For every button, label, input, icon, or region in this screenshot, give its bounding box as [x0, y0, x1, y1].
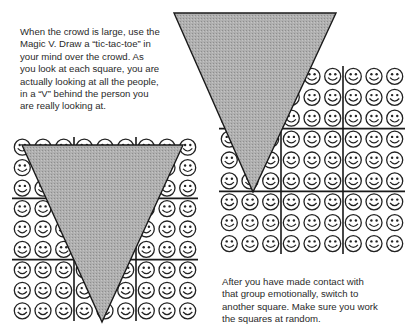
smiley-face-icon — [242, 215, 258, 231]
smiley-face-icon — [325, 68, 341, 84]
smiley-face-icon — [283, 131, 299, 147]
smiley-face-icon — [283, 152, 299, 168]
smiley-face-icon — [14, 180, 30, 196]
smiley-face-icon — [345, 110, 361, 126]
smiley-face-icon — [159, 282, 175, 298]
smiley-face-icon — [14, 241, 30, 257]
smiley-face-icon — [304, 89, 320, 105]
smiley-face-icon — [345, 215, 361, 231]
smiley-face-icon — [138, 262, 154, 278]
smiley-face-icon — [76, 303, 92, 319]
smiley-face-icon — [304, 215, 320, 231]
smiley-face-icon — [304, 173, 320, 189]
smiley-face-icon — [35, 303, 51, 319]
smiley-face-icon — [14, 201, 30, 217]
smiley-face-icon — [180, 160, 196, 176]
smiley-face-icon — [387, 89, 403, 105]
smiley-face-icon — [138, 241, 154, 257]
smiley-face-icon — [56, 303, 72, 319]
smiley-face-icon — [366, 131, 382, 147]
smiley-face-icon — [387, 173, 403, 189]
illustration — [0, 0, 418, 336]
smiley-face-icon — [325, 152, 341, 168]
smiley-face-icon — [325, 173, 341, 189]
smiley-face-icon — [304, 131, 320, 147]
smiley-face-icon — [387, 110, 403, 126]
smiley-face-icon — [138, 303, 154, 319]
smiley-face-icon — [304, 236, 320, 252]
smiley-face-icon — [325, 131, 341, 147]
smiley-face-icon — [366, 68, 382, 84]
smiley-face-icon — [180, 262, 196, 278]
smiley-face-icon — [345, 152, 361, 168]
smiley-face-icon — [159, 241, 175, 257]
smiley-face-icon — [304, 110, 320, 126]
smiley-face-icon — [387, 215, 403, 231]
smiley-face-icon — [138, 282, 154, 298]
smiley-face-icon — [14, 282, 30, 298]
smiley-face-icon — [35, 241, 51, 257]
smiley-face-icon — [387, 152, 403, 168]
smiley-face-icon — [180, 303, 196, 319]
smiley-face-icon — [159, 221, 175, 237]
smiley-face-icon — [221, 194, 237, 210]
smiley-face-icon — [263, 215, 279, 231]
smiley-face-icon — [283, 173, 299, 189]
smiley-face-icon — [242, 236, 258, 252]
smiley-face-icon — [387, 131, 403, 147]
smiley-face-icon — [345, 173, 361, 189]
smiley-face-icon — [14, 221, 30, 237]
smiley-face-icon — [159, 201, 175, 217]
smiley-face-icon — [325, 194, 341, 210]
smiley-face-icon — [159, 262, 175, 278]
smiley-face-icon — [118, 303, 134, 319]
smiley-face-icon — [221, 173, 237, 189]
smiley-face-icon — [14, 303, 30, 319]
smiley-face-icon — [345, 194, 361, 210]
smiley-face-icon — [14, 160, 30, 176]
smiley-face-icon — [283, 215, 299, 231]
smiley-face-icon — [35, 221, 51, 237]
smiley-face-icon — [56, 262, 72, 278]
page: When the crowd is large, use the Magic V… — [0, 0, 418, 336]
smiley-face-icon — [180, 282, 196, 298]
smiley-face-icon — [366, 173, 382, 189]
smiley-face-icon — [345, 236, 361, 252]
smiley-face-icon — [304, 194, 320, 210]
smiley-face-icon — [345, 89, 361, 105]
smiley-face-icon — [56, 282, 72, 298]
smiley-face-icon — [325, 215, 341, 231]
smiley-face-icon — [221, 236, 237, 252]
smiley-face-icon — [283, 236, 299, 252]
smiley-face-icon — [159, 303, 175, 319]
smiley-face-icon — [118, 282, 134, 298]
smiley-face-icon — [180, 180, 196, 196]
smiley-face-icon — [366, 194, 382, 210]
smiley-face-icon — [221, 215, 237, 231]
smiley-face-icon — [325, 236, 341, 252]
smiley-face-icon — [366, 152, 382, 168]
smiley-face-icon — [35, 282, 51, 298]
smiley-face-icon — [387, 236, 403, 252]
smiley-face-icon — [366, 236, 382, 252]
smiley-face-icon — [180, 201, 196, 217]
smiley-face-icon — [263, 173, 279, 189]
smiley-face-icon — [283, 194, 299, 210]
smiley-face-icon — [263, 236, 279, 252]
smiley-face-icon — [180, 221, 196, 237]
smiley-face-icon — [304, 152, 320, 168]
smiley-face-icon — [180, 241, 196, 257]
smiley-face-icon — [366, 89, 382, 105]
smiley-face-icon — [345, 131, 361, 147]
smiley-face-icon — [325, 110, 341, 126]
smiley-face-icon — [325, 89, 341, 105]
smiley-face-icon — [263, 194, 279, 210]
smiley-face-icon — [242, 194, 258, 210]
smiley-face-icon — [221, 152, 237, 168]
smiley-face-icon — [366, 215, 382, 231]
smiley-face-icon — [35, 262, 51, 278]
smiley-face-icon — [14, 262, 30, 278]
smiley-face-icon — [345, 68, 361, 84]
smiley-face-icon — [387, 194, 403, 210]
smiley-face-icon — [387, 68, 403, 84]
